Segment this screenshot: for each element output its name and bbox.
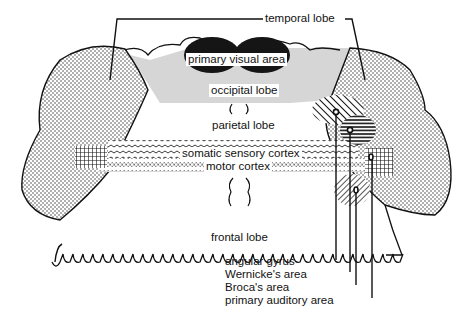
label-occipital-lobe: occipital lobe (209, 84, 279, 97)
label-wernickes-area: Wernicke's area (225, 268, 307, 281)
label-temporal-lobe: temporal lobe (263, 12, 337, 25)
label-frontal-lobe: frontal lobe (209, 231, 270, 244)
label-angular-gyrus: angular gyrus (225, 255, 295, 268)
label-primary-auditory-area: primary auditory area (225, 294, 334, 307)
primary-auditory-area-left (75, 146, 107, 168)
label-somatic-sensory-cortex: somatic sensory cortex (180, 147, 302, 160)
brocas-area-region (334, 174, 370, 206)
temporal-lobe-left (22, 46, 148, 220)
label-motor-cortex: motor cortex (204, 160, 272, 173)
primary-auditory-area-right (365, 148, 393, 176)
wernickes-area-region (340, 115, 376, 145)
label-primary-visual-area: primary visual area (186, 53, 287, 66)
label-parietal-lobe: parietal lobe (210, 119, 277, 132)
label-brocas-area: Broca's area (225, 281, 289, 294)
